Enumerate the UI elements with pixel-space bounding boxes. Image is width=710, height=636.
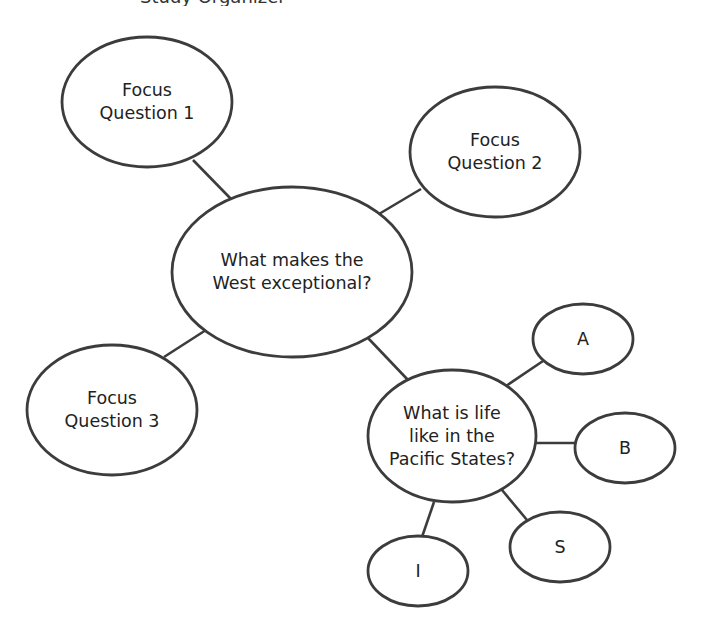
- bubbles: [27, 37, 675, 606]
- connector-pacific-s: [502, 490, 527, 520]
- central-bubble: [172, 187, 412, 357]
- bubble-i: [368, 536, 468, 606]
- bubble-s: [510, 512, 610, 582]
- bubble-focus-question-2: [410, 87, 580, 217]
- connector-fq1-center: [193, 160, 231, 199]
- connector-fq3-center: [164, 330, 206, 357]
- bubble-a: [533, 304, 633, 374]
- connector-fq2-center: [379, 189, 421, 214]
- connector-pacific-a: [506, 361, 543, 386]
- bubble-b: [575, 413, 675, 483]
- bubble-pacific-states: [368, 370, 536, 502]
- connector-center-pacific: [368, 338, 408, 380]
- concept-web-canvas: [0, 0, 710, 636]
- bubble-focus-question-3: [27, 345, 197, 475]
- bubble-focus-question-1: [62, 37, 232, 167]
- connector-pacific-i: [422, 502, 434, 537]
